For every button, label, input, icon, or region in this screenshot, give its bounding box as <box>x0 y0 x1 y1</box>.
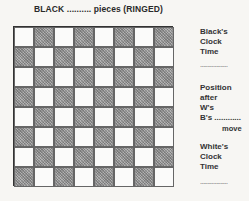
black-clock-label: Black's Clock Time <box>200 27 228 57</box>
board-square[interactable] <box>74 147 94 167</box>
board-square[interactable] <box>134 47 154 67</box>
board-square[interactable] <box>94 127 114 147</box>
board-square[interactable] <box>114 127 134 147</box>
board-square[interactable] <box>14 167 34 187</box>
board-square[interactable] <box>114 107 134 127</box>
chess-board <box>13 26 173 186</box>
board-square[interactable] <box>14 127 34 147</box>
board-square[interactable] <box>14 47 34 67</box>
board-square[interactable] <box>114 147 134 167</box>
board-square[interactable] <box>134 147 154 167</box>
board-square[interactable] <box>134 127 154 147</box>
board-square[interactable] <box>154 67 174 87</box>
board-square[interactable] <box>94 87 114 107</box>
board-square[interactable] <box>34 27 54 47</box>
board-square[interactable] <box>154 87 174 107</box>
board-square[interactable] <box>34 147 54 167</box>
board-square[interactable] <box>154 167 174 187</box>
board-square[interactable] <box>54 87 74 107</box>
board-square[interactable] <box>54 167 74 187</box>
board-square[interactable] <box>14 87 34 107</box>
board-square[interactable] <box>134 167 154 187</box>
board-square[interactable] <box>34 47 54 67</box>
board-square[interactable] <box>34 67 54 87</box>
move-label: move <box>222 124 242 133</box>
board-square[interactable] <box>94 67 114 87</box>
board-square[interactable] <box>54 127 74 147</box>
label-line: Time <box>200 47 228 57</box>
board-square[interactable] <box>134 107 154 127</box>
white-clock-blank[interactable]: ................... <box>200 178 227 185</box>
board-square[interactable] <box>54 67 74 87</box>
board-square[interactable] <box>34 167 54 187</box>
board-square[interactable] <box>154 147 174 167</box>
board-square[interactable] <box>14 67 34 87</box>
board-square[interactable] <box>14 27 34 47</box>
board-square[interactable] <box>54 147 74 167</box>
board-square[interactable] <box>74 27 94 47</box>
board-square[interactable] <box>74 47 94 67</box>
label-line: Clock <box>200 37 228 47</box>
board-square[interactable] <box>114 47 134 67</box>
board-square[interactable] <box>74 67 94 87</box>
board-square[interactable] <box>74 107 94 127</box>
board-square[interactable] <box>154 127 174 147</box>
board-square[interactable] <box>154 107 174 127</box>
board-square[interactable] <box>114 67 134 87</box>
diagram-title: BLACK .......... pieces (RINGED) <box>34 4 163 14</box>
white-clock-label: White's Clock Time <box>200 142 228 172</box>
board-square[interactable] <box>154 47 174 67</box>
board-square[interactable] <box>134 87 154 107</box>
board-square[interactable] <box>134 27 154 47</box>
board-square[interactable] <box>114 167 134 187</box>
board-square[interactable] <box>94 27 114 47</box>
board-square[interactable] <box>54 107 74 127</box>
move-blank: B's ............ <box>200 113 241 123</box>
board-square[interactable] <box>94 147 114 167</box>
board-square[interactable] <box>34 87 54 107</box>
label-line: Black's <box>200 27 228 37</box>
position-label: Position after W's B's ............ <box>200 83 241 123</box>
board-square[interactable] <box>54 27 74 47</box>
label-line: after <box>200 93 241 103</box>
board-square[interactable] <box>74 167 94 187</box>
board-square[interactable] <box>94 167 114 187</box>
board-square[interactable] <box>34 107 54 127</box>
black-clock-blank[interactable]: ................... <box>200 61 227 68</box>
board-square[interactable] <box>14 147 34 167</box>
board-square[interactable] <box>74 127 94 147</box>
board-square[interactable] <box>34 127 54 147</box>
board-square[interactable] <box>114 27 134 47</box>
board-square[interactable] <box>154 27 174 47</box>
label-line: Position <box>200 83 241 93</box>
board-square[interactable] <box>94 47 114 67</box>
board-square[interactable] <box>114 87 134 107</box>
board-square[interactable] <box>54 47 74 67</box>
board-square[interactable] <box>134 67 154 87</box>
label-line: White's <box>200 142 228 152</box>
label-line: Clock <box>200 152 228 162</box>
label-line: Time <box>200 162 228 172</box>
board-square[interactable] <box>74 87 94 107</box>
label-line: W's <box>200 103 241 113</box>
board-square[interactable] <box>94 107 114 127</box>
board-square[interactable] <box>14 107 34 127</box>
